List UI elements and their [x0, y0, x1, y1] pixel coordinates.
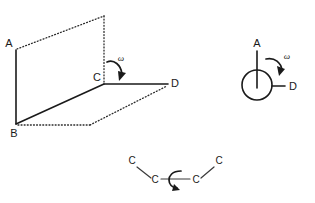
- two-plane-dihedral-diagram: A B C D ω: [5, 16, 179, 139]
- vertex-label-b: B: [10, 127, 17, 139]
- omega-label-planes: ω: [118, 53, 124, 63]
- vertex-label-c: C: [93, 71, 101, 83]
- omega-label-newman: ω: [284, 51, 290, 61]
- newman-label-a: A: [253, 37, 261, 49]
- carbon-chain-rotation-diagram: C C C C: [128, 155, 222, 191]
- chain-atom-c4: C: [215, 155, 222, 166]
- chain-bond-c3-c4: [201, 167, 214, 178]
- rotation-arrow-head-planes: [118, 71, 126, 81]
- dotted-edge-bottomright-to-d: [90, 86, 167, 125]
- figure-canvas: A B C D ω A D ω C C: [0, 0, 315, 203]
- chain-bond-c1-c2: [137, 167, 151, 178]
- dotted-edge-a-to-topright: [17, 16, 104, 49]
- vertex-label-a: A: [5, 37, 13, 49]
- vertex-label-d: D: [171, 77, 179, 89]
- chain-atom-c1: C: [128, 155, 135, 166]
- newman-projection-diagram: A D ω: [242, 37, 297, 100]
- rotation-arrow-head-newman: [277, 66, 285, 76]
- chain-atom-c2: C: [151, 174, 158, 185]
- solid-edge-b-c: [16, 84, 104, 124]
- rotation-arrow-head-chain: [172, 184, 180, 191]
- newman-label-d: D: [289, 80, 297, 92]
- diagram-svg: A B C D ω A D ω C C: [0, 0, 315, 203]
- chain-atom-c3: C: [192, 174, 199, 185]
